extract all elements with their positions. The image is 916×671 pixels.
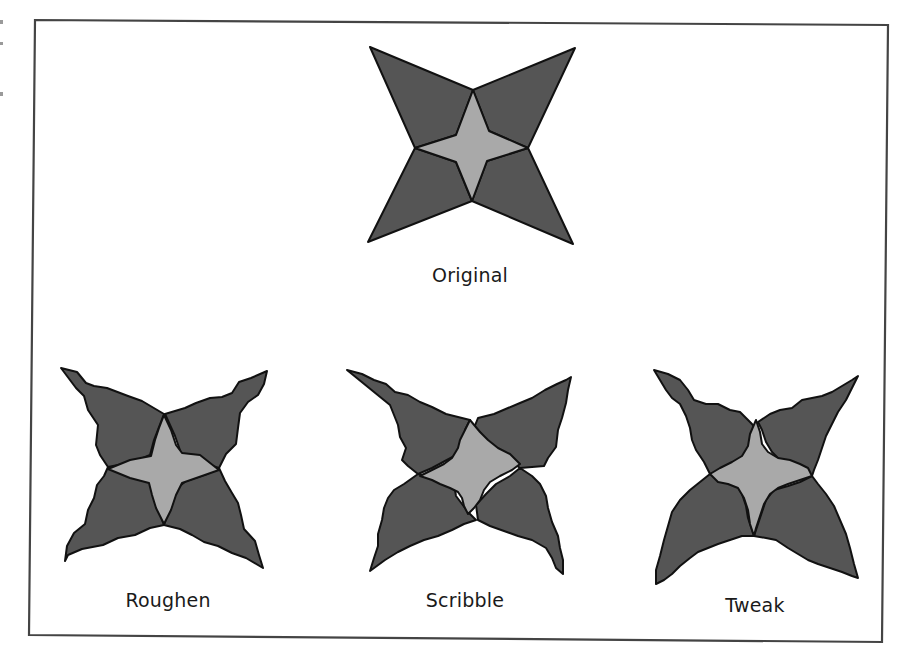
- figure-canvas: [0, 0, 916, 671]
- label-original: Original: [432, 264, 508, 286]
- scan-artifact: [0, 42, 3, 45]
- label-tweak: Tweak: [725, 594, 784, 616]
- panel-original: [368, 47, 575, 244]
- scan-artifact: [0, 92, 3, 96]
- label-roughen: Roughen: [125, 589, 210, 611]
- scan-artifact: [0, 20, 3, 24]
- label-scribble: Scribble: [426, 589, 504, 611]
- panel-tweak: [654, 370, 858, 584]
- roughen-petal-top-left: [61, 368, 164, 467]
- panel-roughen: [61, 368, 267, 568]
- panel-scribble: [347, 370, 571, 574]
